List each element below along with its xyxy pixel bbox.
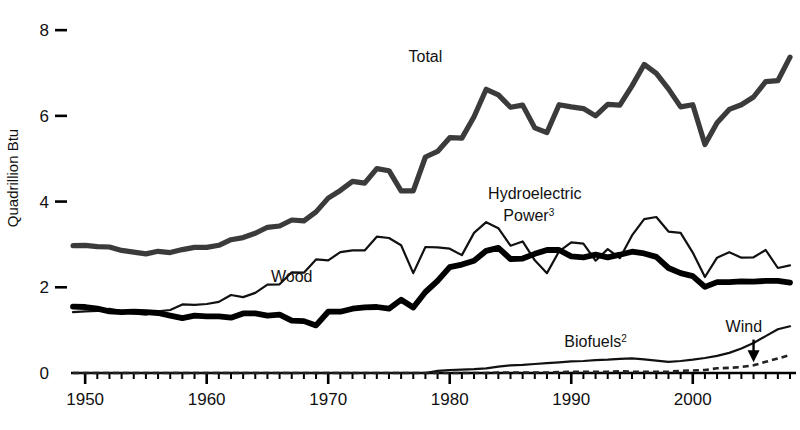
chart-canvas: 195019601970198019902000 02468 Quadrilli… [0, 0, 800, 430]
x-axis-tick-label: 1960 [188, 390, 226, 409]
y-axis-tick-labels: 02468 [40, 21, 49, 383]
y-axis-tick-label: 0 [40, 364, 49, 383]
series-label-biofuels: Biofuels2 [564, 333, 627, 351]
y-axis-title-text: Quadrillion Btu [4, 129, 21, 227]
series-label-hydroelectric-power-line2: Power3 [503, 207, 554, 225]
y-axis-ticks [55, 30, 67, 287]
x-axis-tick-label: 1990 [552, 390, 590, 409]
data-series-group [73, 57, 790, 373]
series-line-total [73, 57, 790, 254]
series-line-hydroelectric-power [73, 217, 790, 315]
x-axis-tick-label: 1970 [309, 390, 347, 409]
y-axis-tick-label: 8 [40, 21, 49, 40]
y-axis-tick-label: 2 [40, 278, 49, 297]
series-labels-group: TotalHydroelectricPower3WoodBiofuels2Win… [271, 48, 762, 350]
y-axis-tick-label: 4 [40, 193, 49, 212]
series-label-total: Total [409, 48, 443, 65]
annotations-group [748, 340, 760, 363]
y-axis-tick-label: 6 [40, 107, 49, 126]
series-label-hydroelectric-power-line1: Hydroelectric [488, 185, 581, 202]
series-line-wind [73, 355, 790, 373]
series-label-wood: Wood [271, 268, 313, 285]
wind-arrow-head [748, 350, 760, 362]
series-line-biofuels [73, 326, 790, 373]
series-label-wind: Wind [726, 318, 762, 335]
x-axis-tick-label: 2000 [674, 390, 712, 409]
series-line-wood [73, 248, 790, 326]
x-axis-ticks [85, 373, 790, 384]
x-axis-tick-labels: 195019601970198019902000 [66, 390, 711, 409]
renewable-energy-line-chart: 195019601970198019902000 02468 Quadrilli… [0, 0, 800, 430]
x-axis-tick-label: 1950 [66, 390, 104, 409]
y-axis-title: Quadrillion Btu [4, 129, 21, 227]
x-axis-tick-label: 1980 [431, 390, 469, 409]
